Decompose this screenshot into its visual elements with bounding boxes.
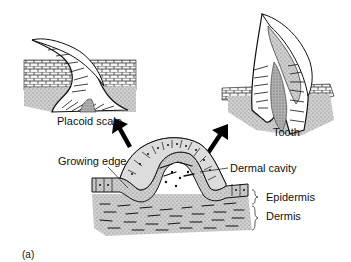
epidermis-label: Epidermis <box>266 191 315 203</box>
placoid-scale-illustration <box>24 39 136 112</box>
tooth-label: Tooth <box>273 126 300 138</box>
dermis-brace <box>252 206 258 230</box>
arrow-to-tooth <box>206 124 228 154</box>
placoid-scale-label: Placoid scale <box>57 115 122 127</box>
panel-label: (a) <box>22 249 34 261</box>
epidermis-brace <box>252 190 258 204</box>
growing-edge-label: Growing edge <box>58 155 127 167</box>
dermal-cavity-label: Dermal cavity <box>230 162 297 174</box>
diagram-figure: Placoid scale Tooth Growing edge Dermal … <box>0 0 351 262</box>
skin-section-illustration <box>92 138 252 236</box>
tooth-illustration <box>222 14 334 136</box>
dermis-label: Dermis <box>266 210 301 222</box>
